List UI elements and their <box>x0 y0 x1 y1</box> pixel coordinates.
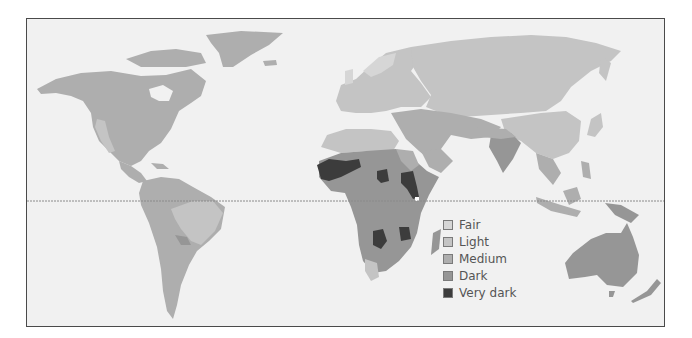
region-india <box>489 133 521 173</box>
region-se-asia <box>536 153 561 185</box>
legend-swatch-medium <box>443 254 453 264</box>
legend-item-fair: Fair <box>443 216 516 233</box>
region-uk <box>345 69 353 85</box>
world-map-frame <box>26 18 665 327</box>
region-japan <box>587 113 603 137</box>
region-new-guinea <box>605 203 639 223</box>
region-arctic-islands <box>126 49 206 67</box>
region-north-asia <box>411 35 621 117</box>
region-borneo <box>563 187 581 205</box>
map-legend: Fair Light Medium Dark Very dark <box>443 216 516 301</box>
region-arabia <box>421 149 453 173</box>
region-lake-victoria <box>415 197 419 201</box>
region-australia <box>565 223 639 287</box>
legend-item-very-dark: Very dark <box>443 284 516 301</box>
region-iceland <box>263 60 277 66</box>
legend-swatch-very-dark <box>443 288 453 298</box>
region-north-america <box>37 69 206 166</box>
legend-label: Fair <box>459 218 480 232</box>
region-madagascar <box>431 229 441 255</box>
legend-item-medium: Medium <box>443 250 516 267</box>
legend-swatch-light <box>443 237 453 247</box>
legend-swatch-fair <box>443 220 453 230</box>
region-tasmania <box>609 291 615 297</box>
legend-label: Very dark <box>459 286 516 300</box>
region-zambia-very-dark <box>399 227 411 241</box>
region-caribbean <box>151 163 169 169</box>
legend-label: Dark <box>459 269 487 283</box>
legend-item-dark: Dark <box>443 267 516 284</box>
legend-label: Light <box>459 235 489 249</box>
world-map <box>27 19 665 327</box>
legend-label: Medium <box>459 252 507 266</box>
region-new-zealand <box>631 279 661 303</box>
legend-item-light: Light <box>443 233 516 250</box>
legend-swatch-dark <box>443 271 453 281</box>
region-north-africa <box>321 129 399 153</box>
region-philippines <box>581 161 591 179</box>
region-south-america <box>139 177 225 319</box>
